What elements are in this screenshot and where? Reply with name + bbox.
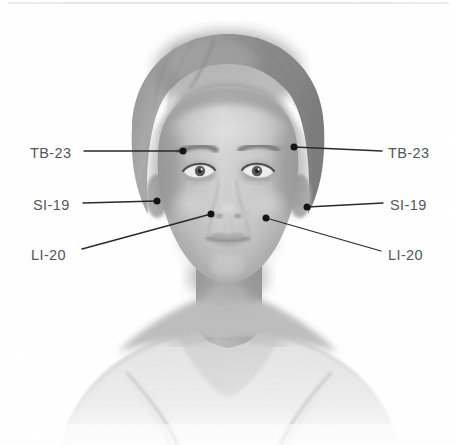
point-marker-tb-23-left — [180, 148, 187, 155]
label-si-19-right: SI-19 — [390, 198, 427, 213]
label-li-20-left: LI-20 — [31, 248, 66, 263]
leader-line-si-19-right — [307, 203, 383, 207]
leader-line-tb-23-right — [294, 147, 382, 151]
leader-line-si-19-left — [83, 201, 157, 203]
label-si-19-left: SI-19 — [33, 198, 70, 213]
annotation-layer — [0, 0, 457, 445]
point-marker-tb-23-right — [291, 144, 298, 151]
annotation-svg — [0, 0, 457, 445]
point-marker-li-20-right — [263, 215, 270, 222]
acupuncture-face-figure: TB-23 SI-19 LI-20 TB-23 SI-19 LI-20 — [0, 0, 457, 445]
point-marker-si-19-left — [154, 198, 161, 205]
point-marker-si-19-right — [304, 204, 311, 211]
label-tb-23-right: TB-23 — [388, 146, 430, 161]
label-li-20-right: LI-20 — [388, 248, 423, 263]
label-tb-23-left: TB-23 — [30, 146, 72, 161]
point-marker-li-20-left — [208, 211, 215, 218]
leader-line-li-20-right — [266, 218, 381, 251]
leader-line-li-20-left — [82, 214, 211, 249]
